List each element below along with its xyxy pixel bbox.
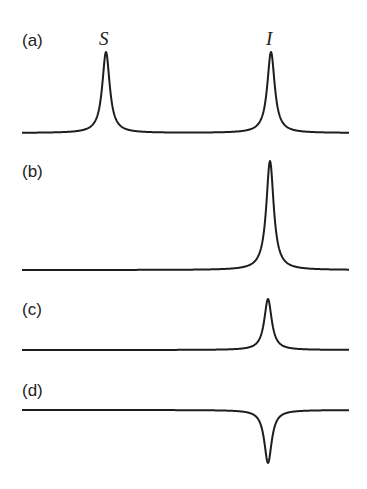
peak-label-i: I: [265, 28, 274, 49]
panel-label-a: (a): [22, 31, 43, 50]
panel-label-c: (c): [22, 300, 42, 319]
panel-label-b: (b): [22, 162, 43, 181]
peak-label-s: S: [99, 28, 109, 49]
spectrum-trace-a: [22, 52, 349, 133]
panel-label-d: (d): [22, 381, 43, 400]
spectrum-trace-c: [22, 299, 349, 350]
spectrum-trace-d: [22, 410, 349, 463]
spectrum-trace-b: [22, 161, 349, 270]
spectra-figure: (a) S I (b) (c) (d): [0, 0, 367, 489]
